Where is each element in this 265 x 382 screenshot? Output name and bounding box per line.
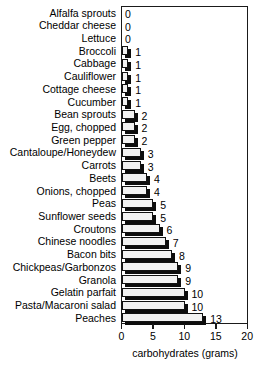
bar-chart: Alfalfa sproutsCheddar cheeseLettuceBroc… — [0, 0, 265, 382]
bar-front-face[interactable] — [122, 148, 141, 157]
x-tick-mark — [152, 324, 153, 329]
bar-front-face[interactable] — [122, 135, 135, 144]
x-axis-title: carbohydrates (grams) — [99, 347, 265, 359]
bar-front-face[interactable] — [122, 110, 135, 119]
plot-area: 0001111122233445567899101013 — [121, 6, 248, 324]
bar-front-face[interactable] — [122, 262, 178, 271]
bar-front-face[interactable] — [122, 199, 153, 208]
bar-front-face[interactable] — [122, 161, 141, 170]
bar-front-face[interactable] — [122, 173, 147, 182]
bars-container: 0001111122233445567899101013 — [122, 7, 247, 323]
bar-front-face[interactable] — [122, 97, 128, 106]
x-axis: 05101520 carbohydrates (grams) — [121, 324, 248, 382]
bar-front-face[interactable] — [122, 224, 160, 233]
bar-front-face[interactable] — [122, 84, 128, 93]
bar-front-face[interactable] — [122, 301, 185, 310]
category-axis-labels: Alfalfa sproutsCheddar cheeseLettuceBroc… — [0, 6, 118, 324]
x-tick-mark — [121, 324, 122, 329]
bar-front-face[interactable] — [122, 313, 203, 322]
bar-front-face[interactable] — [122, 275, 178, 284]
x-tick-label: 10 — [172, 330, 196, 342]
category-label: Peaches — [75, 311, 116, 325]
chart-title — [121, 0, 249, 1]
x-tick-mark — [247, 324, 248, 329]
bar-front-face[interactable] — [122, 212, 153, 221]
x-tick-label: 20 — [235, 330, 259, 342]
bar-front-face[interactable] — [122, 122, 135, 131]
x-tick-label: 5 — [141, 330, 165, 342]
bar-front-face[interactable] — [122, 46, 128, 55]
bar-front-face[interactable] — [122, 72, 128, 81]
x-tick-mark — [184, 324, 185, 329]
bar-front-face[interactable] — [122, 288, 185, 297]
bar-front-face[interactable] — [122, 250, 172, 259]
x-tick-label: 15 — [204, 330, 228, 342]
x-tick-label: 0 — [110, 330, 134, 342]
x-tick-mark — [215, 324, 216, 329]
bar-front-face[interactable] — [122, 186, 147, 195]
bar-front-face[interactable] — [122, 59, 128, 68]
bar-front-face[interactable] — [122, 237, 166, 246]
